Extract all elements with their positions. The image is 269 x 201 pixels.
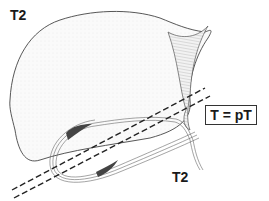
diagram-canvas: T2 T2 T = pT <box>0 0 269 201</box>
label-bottom-t2: T2 <box>172 170 188 184</box>
tumor-patch-lower <box>96 160 118 177</box>
t-equals-pt-box: T = pT <box>205 105 257 125</box>
diagram-illustration <box>0 0 269 201</box>
label-top-t2: T2 <box>10 8 26 22</box>
